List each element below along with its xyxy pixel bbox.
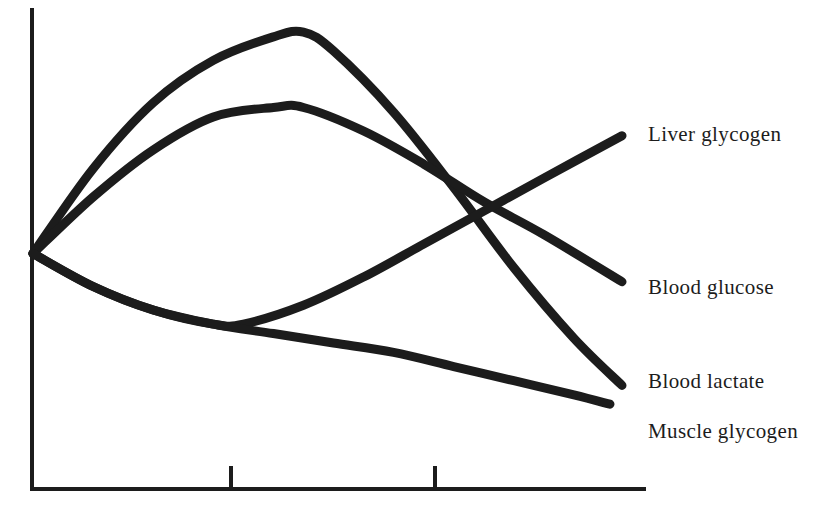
chart-axes — [30, 8, 646, 489]
series-line-liver-glycogen — [33, 31, 622, 385]
figure-container: Liver glycogen Blood glucose Blood lacta… — [0, 0, 819, 508]
series-label-liver-glycogen: Liver glycogen — [648, 124, 781, 145]
chart-series-group — [33, 31, 622, 404]
series-label-blood-glucose: Blood glucose — [648, 277, 774, 298]
series-label-muscle-glycogen: Muscle glycogen — [648, 421, 798, 442]
x-axis-ticks — [231, 466, 435, 489]
series-label-blood-lactate: Blood lactate — [648, 371, 765, 392]
